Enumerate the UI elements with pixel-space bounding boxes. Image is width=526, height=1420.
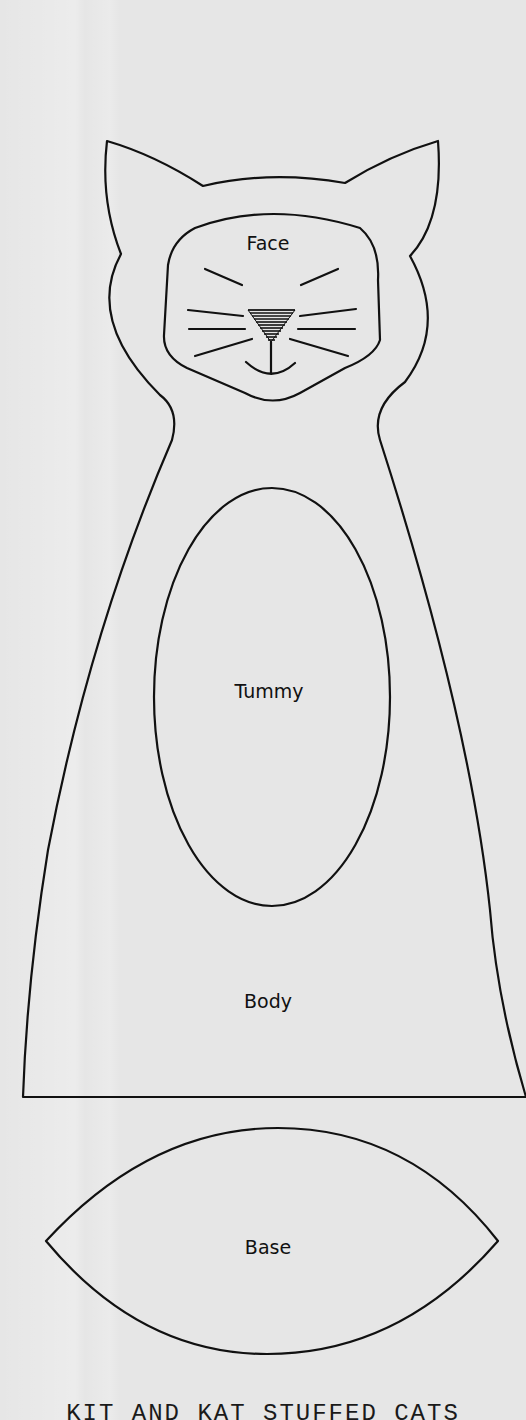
nose (248, 310, 295, 340)
face-label: Face (247, 234, 290, 253)
pattern-title: KIT AND KAT STUFFED CATS (66, 1402, 460, 1420)
body-outline (23, 141, 526, 1097)
left-eye (205, 269, 242, 285)
base-label: Base (245, 1238, 291, 1257)
right-eye (301, 269, 338, 285)
left-whiskers (188, 310, 252, 356)
tummy-label: Tummy (234, 682, 303, 701)
pattern-sheet: Face Tummy Body Base KIT AND KAT STUFFED… (0, 0, 526, 1420)
pattern-drawing (0, 0, 526, 1420)
body-label: Body (244, 992, 292, 1011)
right-whiskers (290, 309, 356, 356)
